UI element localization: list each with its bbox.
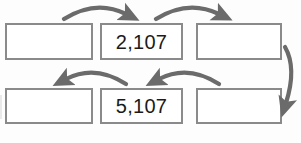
number-box-top-left[interactable] bbox=[5, 23, 93, 60]
number-box-bottom-middle[interactable]: 5,107 bbox=[100, 88, 183, 124]
arrow-bottom-right-to-middle bbox=[159, 73, 219, 84]
number-box-bottom-left[interactable] bbox=[5, 88, 93, 124]
number-box-top-middle[interactable]: 2,107 bbox=[100, 23, 183, 60]
number-pattern-diagram: 2,107 5,107 bbox=[0, 0, 301, 143]
arrow-bottom-middle-to-left bbox=[66, 73, 126, 84]
number-box-top-middle-value: 2,107 bbox=[116, 32, 168, 52]
arrow-top-left-to-middle bbox=[64, 8, 126, 19]
number-box-bottom-middle-value: 5,107 bbox=[116, 96, 168, 116]
arrow-right-wrap-down bbox=[285, 47, 291, 103]
page-edge-artifact bbox=[0, 95, 2, 119]
number-box-top-right[interactable] bbox=[196, 23, 282, 60]
arrow-top-middle-to-right bbox=[156, 8, 219, 19]
number-box-bottom-right[interactable] bbox=[196, 88, 282, 124]
